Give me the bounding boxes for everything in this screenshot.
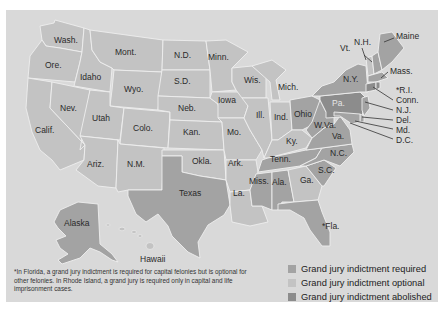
label-texas: Texas	[179, 188, 201, 198]
label-ohio: Ohio	[294, 109, 312, 119]
footnote: *In Florida, a grand jury indictment is …	[14, 268, 254, 294]
label-colo: Colo.	[133, 123, 153, 133]
label-idaho: Idaho	[80, 72, 102, 82]
label-ill: Ill.	[256, 110, 265, 120]
label-ny: N.Y.	[343, 74, 358, 84]
label-nj: N.J.	[396, 105, 411, 115]
label-nev: Nev.	[60, 103, 77, 113]
label-fla: *Fla.	[322, 221, 339, 231]
legend-label: Grand jury indictment optional	[301, 278, 425, 288]
swatch-optional	[288, 279, 296, 287]
legend-item-abolished: Grand jury indictment abolished	[288, 290, 432, 304]
label-ariz: Ariz.	[87, 159, 104, 169]
swatch-required	[288, 265, 296, 273]
label-alaska: Alaska	[64, 218, 90, 228]
label-va: Va.	[332, 131, 344, 141]
label-utah: Utah	[92, 113, 110, 123]
legend-label: Grand jury indictment abolished	[301, 292, 432, 302]
label-nm: N.M.	[127, 159, 145, 169]
label-wyo: Wyo.	[124, 84, 143, 94]
label-wva: W.Va.	[314, 120, 336, 130]
label-pa: Pa.	[332, 98, 345, 108]
label-miss: Miss.	[249, 176, 269, 186]
state-ny	[312, 64, 368, 96]
label-mont: Mont.	[115, 47, 136, 57]
label-sc: S.C.	[318, 165, 335, 175]
label-mass: Mass.	[390, 66, 413, 76]
label-ore: Ore.	[45, 60, 62, 70]
state-del	[360, 114, 364, 122]
label-kan: Kan.	[183, 127, 201, 137]
label-conn: Conn.	[396, 95, 419, 105]
swatch-abolished	[288, 293, 296, 301]
label-ri: *R.I.	[396, 85, 413, 95]
label-mich: Mich.	[278, 82, 298, 92]
label-maine: Maine	[396, 31, 419, 41]
state-alaska	[54, 202, 118, 264]
label-ga: Ga.	[300, 175, 314, 185]
legend-item-required: Grand jury indictment required	[288, 262, 432, 276]
label-tenn: Tenn.	[270, 154, 291, 164]
state-hawaii	[106, 224, 154, 250]
label-hawaii: Hawaii	[140, 254, 166, 264]
label-vt: Vt.	[340, 43, 350, 53]
label-wis: Wis.	[244, 75, 261, 85]
label-md: Md.	[396, 125, 410, 135]
label-nh: N.H.	[354, 37, 371, 47]
state-nj	[362, 96, 370, 116]
label-okla: Okla.	[192, 156, 212, 166]
label-ind: Ind.	[274, 112, 288, 122]
label-ark: Ark.	[228, 158, 243, 168]
label-ky: Ky.	[286, 136, 298, 146]
label-sd: S.D.	[174, 76, 191, 86]
label-iowa: Iowa	[218, 95, 236, 105]
label-del: Del.	[396, 115, 411, 125]
label-dc: D.C.	[396, 135, 413, 145]
label-minn: Minn.	[208, 52, 229, 62]
label-mo: Mo.	[227, 127, 241, 137]
label-neb: Neb.	[178, 103, 196, 113]
label-ala: Ala.	[272, 177, 287, 187]
label-calif: Calif.	[35, 125, 54, 135]
legend-item-optional: Grand jury indictment optional	[288, 276, 432, 290]
legend-label: Grand jury indictment required	[301, 264, 426, 274]
legend: Grand jury indictment required Grand jur…	[288, 262, 432, 304]
label-nc: N.C.	[330, 148, 347, 158]
label-wash: Wash.	[54, 35, 78, 45]
state-conn	[366, 82, 376, 92]
state-ri	[376, 82, 380, 90]
label-la: La.	[233, 188, 245, 198]
label-nd: N.D.	[174, 50, 191, 60]
